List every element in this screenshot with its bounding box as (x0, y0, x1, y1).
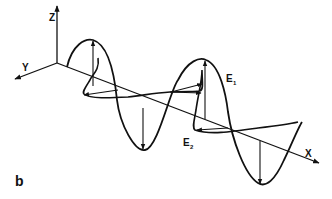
e2-label: E 2 (183, 137, 194, 150)
svg-text:E: E (226, 73, 233, 84)
panel-label: b (15, 173, 24, 189)
wave-diagram: Z Y X E 1 E 2 b (0, 0, 332, 199)
horizontal-wave-curve (83, 58, 298, 133)
coordinate-axes (15, 6, 319, 163)
e1-label: E 1 (226, 73, 237, 86)
svg-text:2: 2 (190, 144, 194, 150)
svg-text:1: 1 (233, 80, 237, 86)
svg-text:E: E (183, 137, 190, 148)
y-axis-label: Y (22, 62, 29, 73)
x-axis-label: X (305, 148, 312, 159)
horizontal-field-arrows (84, 84, 228, 130)
z-axis-label: Z (49, 12, 55, 23)
vertical-field-arrows (93, 41, 260, 184)
x-axis (57, 63, 319, 163)
